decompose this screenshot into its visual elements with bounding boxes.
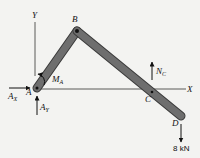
label-a: A	[25, 87, 32, 97]
label-load: 8 kN	[173, 144, 190, 153]
label-ax: AX	[7, 91, 18, 102]
x-axis-label: X	[186, 84, 193, 94]
pin-a	[36, 87, 39, 90]
pin-b	[75, 29, 79, 33]
fbd-diagram: Y X B A C D AX AY MA NC 8 kN	[0, 0, 200, 158]
label-c: C	[145, 94, 152, 104]
label-nc: NC	[155, 66, 167, 77]
diagram-canvas: Y X B A C D AX AY MA NC 8 kN	[0, 0, 200, 158]
point-c	[151, 91, 154, 94]
y-axis-label: Y	[32, 10, 38, 20]
label-d: D	[171, 118, 179, 128]
label-ma: MA	[51, 74, 64, 85]
label-ay: AY	[39, 102, 50, 113]
label-b: B	[72, 14, 78, 24]
